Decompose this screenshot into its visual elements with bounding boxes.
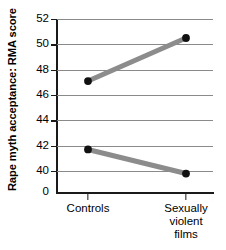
x-tick-mark — [87, 194, 88, 200]
y-tick-mark — [51, 146, 57, 147]
x-axis-line — [56, 192, 214, 194]
gridline — [57, 70, 213, 71]
y-tick-mark — [51, 19, 57, 20]
y-tick-label: 52 — [3, 13, 49, 25]
y-axis-tick-labels: 525048464442400 — [0, 0, 49, 250]
chart-figure: Rape myth acceptance: RMA score 52504846… — [0, 0, 226, 250]
y-axis-zero-label: 0 — [3, 186, 49, 198]
gridline — [57, 146, 213, 147]
plot-area — [57, 19, 213, 189]
y-tick-label: 50 — [3, 39, 49, 51]
y-tick-mark — [51, 95, 57, 96]
x-tick-label: Controls — [67, 202, 110, 215]
gridline — [57, 171, 213, 172]
gridline — [57, 44, 213, 45]
y-tick-mark — [51, 171, 57, 172]
y-tick-label: 44 — [3, 115, 49, 127]
y-tick-mark — [51, 44, 57, 45]
y-tick-label: 40 — [3, 165, 49, 177]
y-tick-label: 46 — [3, 89, 49, 101]
gridline — [57, 19, 213, 20]
y-tick-mark — [51, 70, 57, 71]
y-tick-label: 42 — [3, 140, 49, 152]
gridline — [57, 95, 213, 96]
gridline — [57, 120, 213, 121]
y-tick-label: 48 — [3, 64, 49, 76]
x-tick-mark — [185, 194, 186, 200]
y-tick-mark — [51, 120, 57, 121]
x-tick-label: Sexually violent films — [164, 202, 207, 241]
